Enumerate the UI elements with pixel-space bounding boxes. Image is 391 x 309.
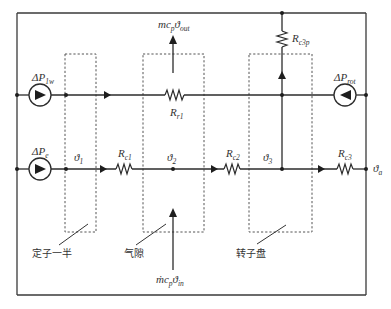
label-rr1: Rr1 bbox=[169, 106, 183, 121]
label-air-gap: 气隙 bbox=[124, 247, 144, 259]
flow-arrow-icon bbox=[100, 165, 107, 173]
label-rc1: Rc1 bbox=[117, 147, 132, 162]
leader-airgap bbox=[136, 224, 166, 245]
resistor-rc1 bbox=[116, 164, 132, 174]
inflow-arrow bbox=[169, 208, 177, 270]
region-box-rotor bbox=[249, 54, 312, 232]
resistor-rc3p bbox=[277, 31, 287, 47]
label-flow-out: mcpϑout bbox=[158, 18, 190, 33]
node-t1-dot bbox=[64, 167, 68, 171]
junction-dot bbox=[364, 93, 368, 97]
label-t2: ϑ2 bbox=[167, 151, 176, 166]
label-t1: ϑ1 bbox=[74, 151, 83, 166]
bottom-branch bbox=[17, 164, 366, 174]
flow-arrow-icon bbox=[211, 165, 218, 173]
flow-arrow-icon bbox=[104, 91, 111, 99]
region-box-airgap bbox=[143, 54, 204, 232]
flow-arrow-icon bbox=[318, 165, 325, 173]
resistor-rc2 bbox=[224, 164, 240, 174]
label-t3: ϑ3 bbox=[263, 151, 272, 166]
label-rc3p: Rc3p bbox=[291, 32, 310, 47]
source-pe bbox=[29, 158, 51, 180]
node-ta-dot bbox=[364, 167, 368, 171]
junction-dot bbox=[280, 11, 284, 15]
resistor-rc3 bbox=[337, 164, 353, 174]
label-stator-half: 定子一半 bbox=[32, 247, 72, 259]
label-ta: ϑa bbox=[373, 162, 382, 177]
thermal-network-diagram: ΔP1w ΔPe ΔProt Rr1 Rc1 Rc2 Rc3 Rc3p ϑ1 ϑ… bbox=[0, 0, 391, 309]
source-p1w bbox=[29, 84, 51, 106]
top-branch bbox=[17, 90, 366, 100]
source-prot bbox=[334, 84, 356, 106]
node-t2-dot bbox=[171, 167, 175, 171]
resistor-rr1 bbox=[165, 90, 184, 100]
leader-stator bbox=[59, 224, 88, 245]
junction-dot bbox=[15, 93, 19, 97]
label-rc3: Rc3 bbox=[337, 147, 352, 162]
rotor-vertical-branch bbox=[277, 13, 287, 169]
node-t3-dot bbox=[280, 167, 284, 171]
leader-rotor bbox=[257, 225, 286, 244]
label-flow-in: ṁcpϑin bbox=[156, 273, 184, 288]
label-rc2: Rc2 bbox=[225, 147, 240, 162]
junction-dot bbox=[15, 167, 19, 171]
label-rotor-disk: 转子盘 bbox=[236, 247, 266, 259]
region-box-stator bbox=[65, 54, 96, 232]
flow-arrow-icon bbox=[278, 71, 286, 79]
junction-dot bbox=[64, 93, 68, 97]
junction-dot bbox=[280, 93, 284, 97]
